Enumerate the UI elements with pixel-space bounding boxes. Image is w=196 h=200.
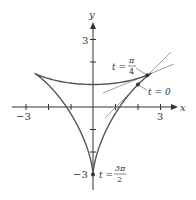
plot-canvas: −3 3 3 −3 x y t = π 4 t = 0 t = 3π 2 <box>0 0 196 200</box>
annotation-t-pi4-num: π <box>128 56 135 65</box>
y-tick-label-neg3: −3 <box>73 169 88 180</box>
annotation-t-pi4-den: 4 <box>129 67 134 76</box>
y-tick-label-3: 3 <box>82 35 88 46</box>
annotation-t-0: t = 0 <box>148 87 171 97</box>
point-t-pi4 <box>145 73 149 77</box>
y-axis-arrow-icon <box>90 22 96 29</box>
point-t-3pi2 <box>91 173 95 177</box>
annotation-t-pi4-lhs: t = <box>112 62 126 72</box>
leader-t-pi4 <box>136 68 145 74</box>
x-axis-label: x <box>180 102 186 113</box>
y-axis-label: y <box>88 9 95 20</box>
annotation-t-3pi2-lhs: t = <box>99 170 113 180</box>
x-tick-label-3: 3 <box>157 111 163 122</box>
point-t-0 <box>136 83 140 87</box>
annotation-t-3pi2-den: 2 <box>117 175 122 184</box>
x-tick-label-neg3: −3 <box>16 111 31 122</box>
x-axis-arrow-icon <box>171 104 178 110</box>
annotation-t-3pi2-num: 3π <box>115 164 126 173</box>
deltoid-diagram: −3 3 3 −3 x y t = π 4 t = 0 t = 3π 2 <box>0 0 196 200</box>
leader-t-0 <box>140 86 147 90</box>
